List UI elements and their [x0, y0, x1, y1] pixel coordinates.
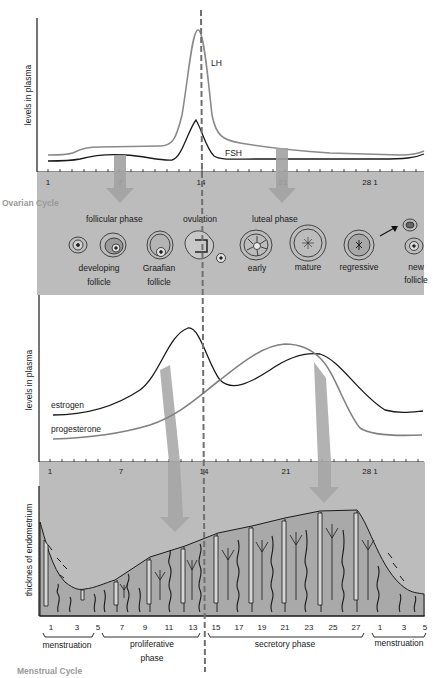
day-tick: 9 — [143, 623, 148, 632]
lh-label: LH — [211, 58, 222, 68]
day-tick: 15 — [212, 623, 221, 632]
day-tick: 5 — [423, 623, 428, 632]
ovarian-cycle-panel: 1 7 14 21 28 1 Ovarian Cycle follicular … — [2, 148, 428, 295]
y-axis-label: levels in plasma — [23, 64, 33, 125]
tick-28-1: 28 1 — [362, 178, 378, 187]
pituitary-hormone-chart: levels in plasma LH FSH — [23, 18, 424, 172]
progesterone-label: progesterone — [51, 424, 101, 434]
new-label-1: new — [408, 262, 424, 272]
day-tick: 5 — [96, 623, 101, 632]
menstruation-brace — [43, 633, 94, 637]
tick-7: 7 — [119, 467, 124, 476]
progesterone-curve — [53, 344, 422, 439]
secretory-phase-label: secretory phase — [255, 639, 316, 649]
mature-label: mature — [295, 262, 322, 272]
tick-21: 21 — [282, 467, 291, 476]
day-tick: 23 — [305, 623, 314, 632]
estrogen-band-icon — [160, 365, 180, 462]
day-tick: 11 — [165, 623, 174, 632]
graafian-label-2: follicle — [147, 277, 171, 287]
menstrual-cycle-title: Menstrual Cycle — [17, 666, 82, 676]
tick-28-1: 28 1 — [362, 467, 378, 476]
graafian-label-1: Graafian — [143, 263, 176, 273]
day-tick: 21 — [281, 623, 290, 632]
menstrual-cycle-diagram: levels in plasma LH FSH 1 7 14 21 28 1 O… — [0, 0, 448, 678]
follicular-phase-label: follicular phase — [86, 214, 143, 224]
menstruation-label: menstruation — [42, 640, 91, 650]
proliferative-brace — [102, 633, 200, 637]
day-tick: 1 — [378, 623, 383, 632]
estrogen-curve — [53, 328, 423, 415]
tick-1: 1 — [46, 178, 51, 187]
menstruation-brace-2 — [372, 633, 426, 637]
endometrium-panel: 1 7 14 21 28 1 thicknes of endometrium — [24, 462, 425, 616]
developing-label-2: follicle — [87, 277, 111, 287]
phase-braces — [43, 633, 426, 637]
luteal-phase-label: luteal phase — [252, 214, 298, 224]
regressive-corpus-luteum-icon — [344, 230, 374, 260]
fsh-label: FSH — [225, 148, 242, 158]
new-label-2: follicle — [404, 275, 428, 285]
menstruation-label-2: menstruation — [374, 638, 423, 648]
day-tick: 27 — [352, 623, 361, 632]
day-tick: 25 — [329, 623, 338, 632]
tick-1: 1 — [48, 467, 53, 476]
proliferative-label-2: phase — [140, 653, 163, 663]
endometrium-day-ticks: 1 3 5 7 9 11 13 15 17 19 21 23 25 27 1 3… — [49, 623, 428, 632]
early-label: early — [248, 263, 267, 273]
day-tick: 17 — [235, 623, 244, 632]
lh-curve — [48, 30, 424, 155]
proliferative-label-1: proliferative — [130, 639, 174, 649]
day-tick: 7 — [120, 623, 125, 632]
secretory-brace — [208, 633, 364, 637]
day-tick: 3 — [75, 623, 80, 632]
y-axis-label: levels in plasma — [24, 349, 34, 410]
ovarian-hormone-chart: levels in plasma estrogen progesterone — [24, 295, 424, 462]
ovulation-label: ovulation — [183, 214, 217, 224]
day-tick: 1 — [49, 623, 54, 632]
regressive-label: regressive — [339, 262, 378, 272]
ovarian-cycle-title: Ovarian Cycle — [2, 198, 59, 208]
endometrium-y-axis-label: thicknes of endometrium — [24, 504, 34, 597]
day-tick: 13 — [189, 623, 198, 632]
progesterone-band-icon — [314, 362, 331, 462]
graafian-follicle-icon — [147, 231, 173, 259]
day-tick: 19 — [258, 623, 267, 632]
developing-label-1: developing — [78, 263, 119, 273]
day-tick: 3 — [402, 623, 407, 632]
estrogen-label: estrogen — [51, 400, 84, 410]
